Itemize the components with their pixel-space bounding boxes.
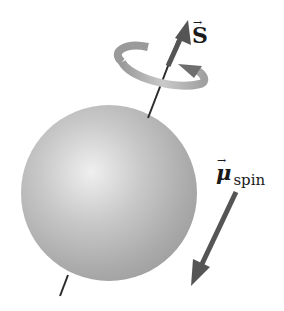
diagram-canvas (0, 0, 284, 311)
particle-sphere (21, 105, 197, 281)
spin-vector-arrow (168, 20, 191, 66)
vector-arrow-mark: → (193, 17, 202, 28)
spin-label: → S (192, 24, 208, 46)
vector-arrow-mark: → (217, 155, 226, 166)
magnetic-moment-arrow (191, 192, 236, 286)
mu-subscript: spin (233, 171, 265, 189)
spin-diagram: → S → μspin (0, 0, 284, 311)
magnetic-moment-label: → μspin (216, 162, 263, 183)
rotation-ring-back (118, 46, 148, 62)
spin-axis-lower (60, 275, 68, 296)
